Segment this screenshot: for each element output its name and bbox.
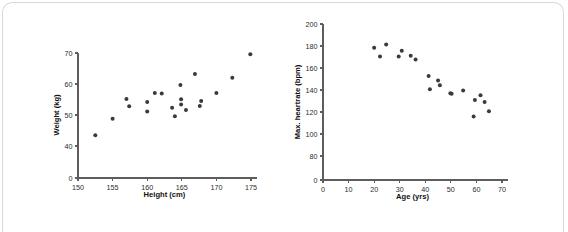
data-point (179, 97, 183, 101)
x-axis-title: Height (cm) (144, 190, 186, 199)
y-tick-label: 200 (306, 20, 318, 29)
data-point (378, 54, 382, 58)
data-point (461, 88, 465, 92)
data-point (199, 99, 203, 103)
x-axis-title: Age (yrs) (396, 192, 429, 201)
data-point (409, 54, 413, 58)
y-axis-title: Weight (kg) (52, 94, 61, 136)
x-tick-label: 0 (321, 185, 325, 194)
data-point (384, 43, 388, 47)
figure-page: 040506070150155160165170175Height (cm)We… (0, 0, 568, 232)
data-point (230, 76, 234, 80)
data-point (179, 102, 183, 106)
x-tick-label: 170 (210, 183, 222, 192)
y-tick-label: 0 (69, 174, 73, 183)
data-point (127, 104, 131, 108)
data-point (450, 92, 454, 96)
data-point (173, 114, 177, 118)
data-point (472, 114, 476, 118)
data-point (178, 83, 182, 87)
y-tick-label: 160 (306, 64, 318, 73)
x-tick-label: 175 (245, 183, 257, 192)
y-tick-label: 140 (306, 86, 318, 95)
y-tick-label: 60 (65, 80, 73, 89)
data-point (473, 98, 477, 102)
data-point (483, 100, 487, 104)
x-tick-label: 155 (107, 183, 119, 192)
data-point (248, 52, 252, 56)
data-point (487, 109, 491, 113)
data-point (145, 100, 149, 104)
data-point (160, 92, 164, 96)
y-tick-label: 40 (65, 142, 73, 151)
data-point (397, 54, 401, 58)
data-point (198, 104, 202, 108)
y-axis-title: Max. heartrate (bpm) (293, 64, 302, 139)
data-point (414, 57, 418, 61)
data-point (436, 78, 440, 82)
y-tick-label: 70 (65, 49, 73, 58)
x-tick-label: 50 (447, 185, 455, 194)
data-point (170, 106, 174, 110)
scatter-plot-height-weight: 040506070150155160165170175Height (cm)We… (0, 0, 284, 232)
x-tick-label: 70 (498, 185, 506, 194)
data-point (427, 74, 431, 78)
data-point (193, 72, 197, 76)
x-tick-label: 10 (345, 185, 353, 194)
data-point-group (93, 52, 252, 137)
data-point (372, 46, 376, 50)
data-point (111, 117, 115, 121)
x-tick-label: 20 (370, 185, 378, 194)
data-point (124, 97, 128, 101)
y-tick-label: 80 (310, 152, 318, 161)
y-tick-label: 0 (314, 176, 318, 185)
data-point (214, 91, 218, 95)
height-weight-chart-svg: 040506070150155160165170175Height (cm)We… (0, 0, 284, 232)
data-point (479, 93, 483, 97)
data-point (184, 108, 188, 112)
scatter-plot-age-heartrate: 080100120140160180200010203040506070Age … (284, 0, 568, 232)
data-point (153, 91, 157, 95)
y-tick-label: 50 (65, 111, 73, 120)
age-heartrate-chart-svg: 080100120140160180200010203040506070Age … (284, 0, 568, 232)
x-tick-label: 60 (472, 185, 480, 194)
y-tick-label: 120 (306, 108, 318, 117)
data-point (428, 87, 432, 91)
data-point-group (372, 43, 491, 119)
x-tick-label: 150 (72, 183, 84, 192)
data-point (93, 133, 97, 137)
data-point (400, 49, 404, 53)
y-tick-label: 180 (306, 42, 318, 51)
y-tick-label: 100 (306, 130, 318, 139)
data-point (438, 83, 442, 87)
data-point (145, 110, 149, 114)
